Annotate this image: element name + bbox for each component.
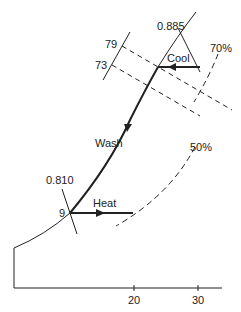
axes <box>14 248 222 291</box>
rh-70-label: 70% <box>210 42 232 54</box>
wet-bulb-73-label: 73 <box>95 59 107 71</box>
specific-volume-0885-label: 0.885 <box>157 20 185 32</box>
x-tick-20: 20 <box>128 294 140 306</box>
heat-arrow-icon <box>96 209 105 217</box>
point-9-label: 9 <box>59 207 65 219</box>
wash-label: Wash <box>95 137 123 149</box>
cool-arrow-icon <box>168 63 176 71</box>
cool-label: Cool <box>167 52 190 64</box>
x-tick-30: 30 <box>192 294 204 306</box>
rh-70-curve <box>194 54 218 102</box>
wet-bulb-73-line <box>112 65 200 116</box>
wet-bulb-79-label: 79 <box>105 38 117 50</box>
specific-volume-0885-line <box>178 28 200 72</box>
psychrometric-diagram: 20 30 79 73 0.885 70% Cool Wash 50% 0.81… <box>0 0 241 312</box>
specific-volume-0810-label: 0.810 <box>46 174 74 186</box>
rh-50-curve <box>116 147 195 226</box>
rh-50-label: 50% <box>190 141 212 153</box>
heat-label: Heat <box>93 197 116 209</box>
